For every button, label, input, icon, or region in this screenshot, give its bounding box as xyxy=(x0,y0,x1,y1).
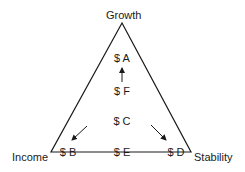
vertex-label-income: Income xyxy=(12,151,48,163)
arrow-c-to-b xyxy=(72,126,87,140)
vertex-label-growth: Growth xyxy=(106,9,141,21)
node-b: $ B xyxy=(60,146,77,158)
node-f: $ F xyxy=(114,85,130,97)
node-d: $ D xyxy=(167,146,184,158)
arrow-c-to-d xyxy=(151,125,166,140)
vertex-label-stability: Stability xyxy=(194,151,233,163)
node-a: $ A xyxy=(114,52,130,64)
node-c: $ C xyxy=(113,115,130,127)
node-e: $ E xyxy=(114,146,131,158)
